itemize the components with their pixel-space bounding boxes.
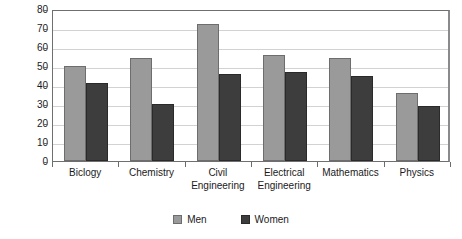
bar-women (86, 83, 108, 161)
bar-men (329, 58, 351, 161)
bar-group (186, 11, 252, 161)
legend-swatch-icon (241, 215, 250, 224)
bar-group (119, 11, 185, 161)
x-axis-label: Electrical Engineering (251, 167, 317, 192)
chart-legend: MenWomen (0, 214, 462, 225)
legend-item-women[interactable]: Women (241, 214, 289, 225)
y-tick-mark (44, 29, 48, 30)
bar-group (53, 11, 119, 161)
bar-men (64, 66, 86, 161)
y-axis-ticks: 01020304050607080 (22, 10, 48, 162)
bar-men (197, 24, 219, 161)
y-tick-mark (44, 124, 48, 125)
bar-women (219, 74, 241, 161)
bar-chart: Percent 01020304050607080 BiclogyChemist… (0, 0, 462, 239)
x-axis-label: Civil Engineering (185, 167, 251, 192)
x-axis-label: Physics (384, 167, 450, 180)
y-tick-mark (44, 162, 48, 163)
legend-label: Men (187, 214, 206, 225)
x-axis-label: Mathematics (317, 167, 383, 180)
bar-women (285, 72, 307, 161)
legend-label: Women (255, 214, 289, 225)
x-axis-label: Biclogy (52, 167, 118, 180)
bar-group (318, 11, 384, 161)
bar-men (396, 93, 418, 161)
x-axis-label: Chemistry (118, 167, 184, 180)
y-tick-mark (44, 143, 48, 144)
x-tick-mark (450, 162, 451, 167)
y-tick-mark (44, 48, 48, 49)
bar-group (252, 11, 318, 161)
bars-layer (53, 11, 448, 161)
y-tick-mark (44, 10, 48, 11)
x-axis-labels: BiclogyChemistryCivil EngineeringElectri… (52, 167, 450, 201)
legend-item-men[interactable]: Men (173, 214, 206, 225)
y-tick-mark (44, 105, 48, 106)
bar-women (351, 76, 373, 162)
y-tick-mark (44, 67, 48, 68)
bar-women (418, 106, 440, 161)
y-tick-mark (44, 86, 48, 87)
bar-men (130, 58, 152, 161)
bar-group (385, 11, 451, 161)
legend-swatch-icon (173, 215, 182, 224)
plot-area (52, 10, 450, 162)
bar-women (152, 104, 174, 161)
bar-men (263, 55, 285, 161)
